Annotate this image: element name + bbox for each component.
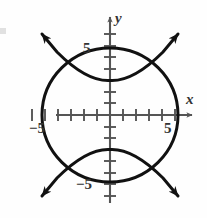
y-axis-tick-label-neg5: −5 [76, 177, 92, 192]
graph-figure: y x 5 −5 5 −5 [0, 0, 207, 218]
y-axis-label: y [115, 11, 122, 26]
x-axis-label: x [186, 92, 194, 107]
x-axis-tick-label-neg5: −5 [29, 121, 45, 136]
x-axis-tick-label-5: 5 [164, 121, 172, 136]
y-axis-tick-label-5: 5 [83, 41, 91, 56]
coordinate-plot [0, 0, 207, 218]
